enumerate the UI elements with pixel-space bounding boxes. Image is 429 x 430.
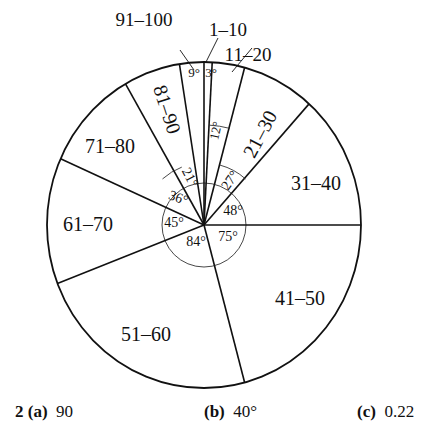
- answer-c: (c) 0.22: [357, 402, 414, 422]
- slice-category-label: 41–50: [275, 287, 325, 309]
- slice-category-label: 61–70: [63, 213, 113, 235]
- slice-angle-label: 75°: [218, 229, 238, 244]
- slice-angle-label: 48°: [223, 203, 243, 218]
- slice-angle-label: 84°: [186, 234, 206, 249]
- answers-row: 2 (a) 90 (b) 40° (c) 0.22: [0, 402, 429, 426]
- slice-category-label: 11–20: [225, 44, 272, 65]
- leader-line: [206, 38, 218, 62]
- slice-category-label: 71–80: [85, 135, 135, 157]
- slice-angle-label: 9°: [188, 65, 200, 80]
- slice-category-label: 1–10: [209, 19, 247, 40]
- answer-b: (b) 40°: [204, 402, 257, 422]
- slice-angle-label: 3°: [205, 65, 217, 80]
- answer-a: 2 (a) 90: [15, 402, 73, 422]
- slice-category-label: 91–100: [116, 9, 173, 30]
- pie-chart: 1–1011–2021–3031–4041–5051–6061–7071–808…: [0, 0, 429, 400]
- slice-category-label: 51–60: [121, 323, 171, 345]
- slice-category-label: 31–40: [291, 172, 341, 194]
- slice-angle-label: 45°: [164, 215, 184, 230]
